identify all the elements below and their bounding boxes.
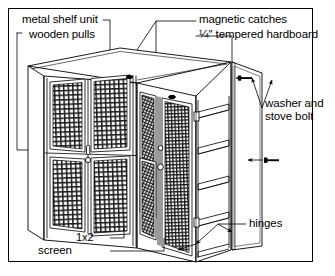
wooden-pull-lower — [85, 157, 90, 162]
label-screen: screen — [38, 244, 72, 257]
cabinet-left-end — [28, 66, 44, 240]
wooden-pull-bay-upper — [158, 146, 163, 151]
label-washer-and-stove-bolt-line2: stove bolt — [265, 110, 313, 123]
wooden-pull-bay — [158, 164, 164, 170]
label-hinges: hinges — [249, 217, 282, 230]
label-metal-shelf-unit: metal shelf unit — [22, 13, 98, 26]
label-magnetic-catches: magnetic catches — [199, 13, 287, 26]
illustration-artwork — [0, 0, 335, 276]
magnetic-catch-right — [169, 95, 176, 98]
label-wooden-pulls: wooden pulls — [29, 28, 95, 41]
wooden-pull-upper — [86, 146, 89, 155]
magnetic-catch-left — [126, 75, 132, 78]
figure-canvas: metal shelf unit wooden pulls magnetic c… — [0, 0, 335, 276]
cabinet-right-side — [196, 62, 231, 262]
label-washer-and-stove-bolt-line1: washer and — [265, 97, 323, 110]
bolt-symbol-middle — [264, 158, 279, 163]
label-tempered-hardboard: ¼″ tempered hardboard — [199, 28, 318, 41]
label-1x2: 1x2 — [76, 231, 93, 244]
